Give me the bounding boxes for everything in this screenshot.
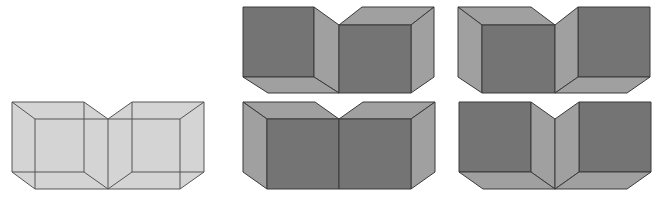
interpretation-4 <box>459 102 651 189</box>
interpretation-3 <box>243 102 435 189</box>
interpretation-2 <box>458 7 650 93</box>
interpretation-1 <box>243 7 434 93</box>
wireframe-figure <box>12 102 204 189</box>
figure-canvas <box>0 0 660 201</box>
